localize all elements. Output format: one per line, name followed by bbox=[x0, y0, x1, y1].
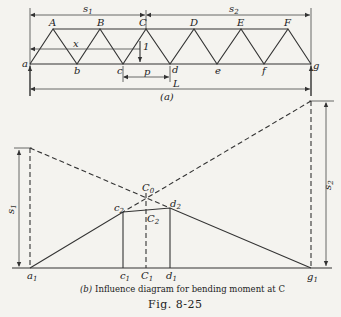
s1-ordinate-label: s1 bbox=[5, 204, 18, 214]
node-b-label: b bbox=[74, 65, 80, 76]
node-C-label: C bbox=[139, 17, 147, 28]
node-g-label: g bbox=[313, 60, 319, 71]
s2-label: s2 bbox=[229, 3, 239, 16]
figure-label: Fig. 8-25 bbox=[148, 298, 202, 311]
s1-label: s1 bbox=[83, 3, 93, 16]
node-d-label: d bbox=[172, 64, 178, 75]
unit-load-label: 1 bbox=[143, 41, 149, 52]
p-label: p bbox=[144, 66, 151, 77]
node-D-label: D bbox=[189, 17, 198, 28]
s2-ordinate-label: s2 bbox=[322, 180, 335, 190]
dashed-line-right-to-c2 bbox=[123, 101, 311, 212]
C1-label: C1 bbox=[141, 270, 153, 283]
truss-part-a: s1 s2 A B C D E F a b c d e f g x 1 p L … bbox=[22, 3, 319, 102]
x-label: x bbox=[73, 38, 79, 49]
part-b-caption: (b)Influence diagram for bending moment … bbox=[80, 284, 285, 294]
influence-diagram: s1 s2 A B C D E F a b c d e f g x 1 p L … bbox=[0, 0, 341, 317]
C2-label: C2 bbox=[147, 213, 160, 226]
C0-label: C0 bbox=[142, 182, 155, 195]
node-E-label: E bbox=[236, 17, 245, 28]
d1-label: d1 bbox=[166, 270, 177, 283]
node-F-label: F bbox=[283, 17, 292, 28]
part-a-label: (a) bbox=[160, 91, 174, 102]
node-A-label: A bbox=[48, 17, 56, 28]
dashed-line-left-to-d2 bbox=[30, 148, 170, 208]
influence-diagram-part-b: s1 s2 C0 c2 C2 d2 a1 c1 C1 d1 g1 (b)Infl… bbox=[5, 101, 335, 294]
node-e-label: e bbox=[215, 65, 221, 76]
a1-label: a1 bbox=[27, 270, 37, 283]
L-label: L bbox=[172, 78, 180, 89]
g1-label: g1 bbox=[307, 271, 318, 284]
node-B-label: B bbox=[96, 17, 104, 28]
node-a-label: a bbox=[22, 58, 28, 69]
node-c-label: c bbox=[117, 65, 123, 76]
c2-label: c2 bbox=[114, 202, 125, 215]
c1-label: c1 bbox=[120, 270, 130, 283]
node-f-label: f bbox=[261, 65, 268, 76]
